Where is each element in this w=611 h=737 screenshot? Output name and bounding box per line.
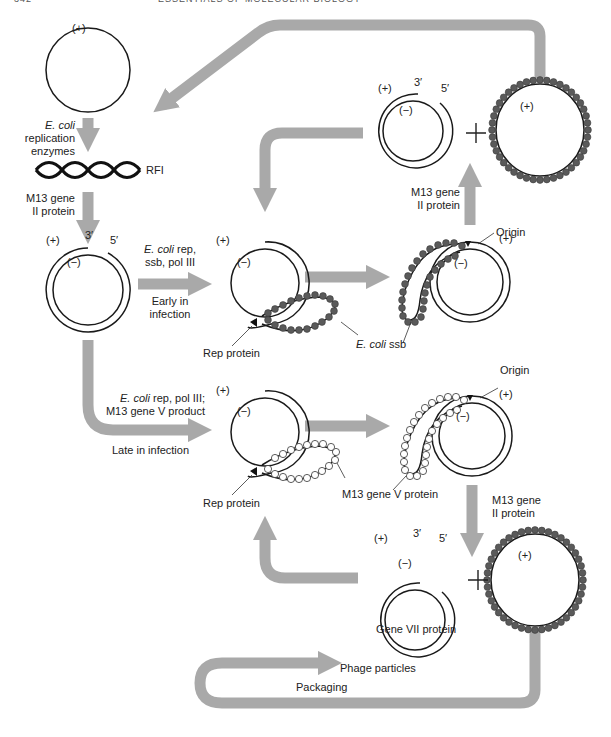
early-rolling-minus: (−): [237, 256, 251, 269]
late-product-rf-outer: [381, 583, 455, 657]
rep-protein-early-label: Rep protein: [203, 347, 260, 360]
ssb-beads-intermediate: [399, 240, 466, 326]
nicked-rf-5prime: 5′: [110, 234, 118, 247]
nicked-rf-inner: [53, 255, 123, 325]
genev-int-minus: (−): [456, 410, 470, 423]
early-enzymes-label: E. coli rep, ssb, pol III: [130, 243, 210, 269]
m13-gene-ii-right-label: M13 gene II protein: [492, 494, 541, 520]
early-rolling-outer: [248, 242, 309, 328]
late-product-rf-inner: [385, 590, 445, 650]
early-rolling-plus: (+): [216, 234, 230, 247]
ssb-beads-late-product: [484, 527, 587, 634]
packaging-label: Packaging: [296, 681, 347, 694]
arrow-rf-recycle-early: [265, 133, 363, 200]
phage-particles-label: Phage particles: [340, 662, 416, 675]
rep-triangle-late: [250, 467, 257, 476]
early-product-rf-3prime: 3′: [414, 76, 422, 89]
gene-vii-protein-label: Gene VII protein: [376, 623, 456, 636]
ssb-int-minus: (−): [454, 257, 468, 270]
ecoli-ssb-label: E. coli ssb: [356, 338, 406, 351]
genev-beads-late-loop: [264, 440, 339, 482]
late-rolling-plus: (+): [216, 384, 230, 397]
arrow-ss-to-rfi-loop: [163, 25, 540, 105]
ss-genome-circle: [46, 28, 130, 112]
late-product-rf-5prime: 5′: [439, 532, 447, 545]
m13-gene-v-protein-label: M13 gene V protein: [342, 488, 438, 501]
late-rolling-outer: [248, 391, 309, 477]
rep-protein-late-label: Rep protein: [203, 497, 260, 510]
early-product-rf-outer: [379, 94, 453, 168]
nicked-rf-outer: [46, 248, 130, 332]
late-product-ss-plus: (+): [518, 549, 532, 562]
arrow-rf-recycle-late: [265, 528, 358, 578]
pathway-arrows: [88, 25, 540, 703]
early-product-rf-plus: (+): [378, 82, 392, 95]
origin-triangle-early: [465, 241, 471, 247]
late-enzymes-label: E. coli rep, pol III; M13 gene V product: [95, 392, 205, 418]
origin-late-label: Origin: [500, 364, 529, 377]
early-product-rf-minus: (−): [399, 104, 413, 117]
late-rolling-minus: (−): [237, 405, 251, 418]
genev-int-plus: (+): [499, 388, 513, 401]
early-product-ss-plus: (+): [520, 100, 534, 113]
nicked-rf-minus: (−): [67, 256, 81, 269]
early-product-rf-inner: [383, 101, 443, 161]
ssb-beads-early-product: [489, 77, 592, 184]
ssb-beads-early-loop: [265, 292, 339, 334]
rfi-supercoil: [36, 163, 140, 178]
rfi-label: RFI: [146, 164, 164, 177]
early-product-ss: [496, 84, 584, 176]
rep-triangle-early: [250, 318, 257, 327]
late-product-rf-3prime: 3′: [413, 527, 421, 540]
ss-genome-plus-label: (+): [72, 22, 86, 35]
early-product-rf-5prime: 5′: [441, 82, 449, 95]
ssb-int-outer: [430, 242, 510, 322]
genev-beads-intermediate: [400, 393, 467, 479]
late-product-rf-minus: (−): [398, 557, 412, 570]
late-product-ss: [491, 534, 579, 626]
nicked-rf-plus: (+): [46, 234, 60, 247]
m13-gene-ii-top-label: M13 gene II protein: [390, 186, 460, 212]
early-in-infection-label: Early in infection: [130, 295, 210, 321]
late-product-rf-plus: (+): [374, 532, 388, 545]
ecoli-replication-label: E. coli replication enzymes: [20, 119, 75, 158]
m13-gene-ii-left-label: M13 gene II protein: [10, 192, 75, 218]
late-in-infection-label: Late in infection: [112, 444, 189, 457]
m13-replication-diagram: 342 ESSENTIALS OF MOLECULAR BIOLOGY: [0, 0, 611, 737]
nicked-rf-3prime: 3′: [85, 229, 93, 242]
ssb-int-plus: (+): [499, 232, 513, 245]
genev-int-outer: [432, 396, 512, 476]
